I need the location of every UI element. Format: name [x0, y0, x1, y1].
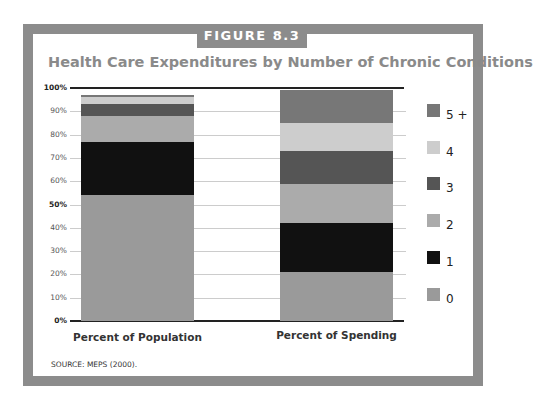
source-note: SOURCE: MEPS (2000). [51, 360, 137, 369]
category-label: Percent of Spending [260, 329, 413, 341]
bar-segment-0 [81, 195, 194, 321]
legend-swatch [427, 104, 440, 117]
bar-percent-of-spending [280, 90, 393, 321]
category-label: Percent of Population [61, 331, 214, 343]
legend-swatch [427, 177, 440, 190]
legend-label: 3 [446, 181, 454, 195]
bar-segment-2 [81, 116, 194, 142]
y-tick-label: 30% [39, 246, 67, 255]
y-tick-label: 100% [39, 83, 67, 92]
legend-item: 5 + [427, 104, 477, 120]
legend-swatch [427, 251, 440, 264]
legend-label: 1 [446, 255, 454, 269]
bar-segment-1 [280, 223, 393, 272]
legend-label: 0 [446, 292, 454, 306]
y-tick-label: 10% [39, 293, 67, 302]
y-tick-label: 50% [39, 200, 67, 209]
legend-swatch [427, 141, 440, 154]
chart-title: Health Care Expenditures by Number of Ch… [48, 54, 533, 70]
legend-label: 5 + [446, 108, 468, 122]
legend-label: 2 [446, 218, 454, 232]
y-tick-label: 20% [39, 269, 67, 278]
legend-item: 2 [427, 214, 477, 230]
bar-segment-2 [280, 184, 393, 224]
bar-segment-3 [81, 104, 194, 116]
bar-segment-5plus [280, 90, 393, 123]
top-axis-line [70, 87, 404, 89]
y-tick-label: 80% [39, 130, 67, 139]
legend-item: 0 [427, 288, 477, 304]
legend-swatch [427, 214, 440, 227]
y-tick-label: 70% [39, 153, 67, 162]
bar-segment-0 [280, 272, 393, 321]
bar-percent-of-population [81, 95, 194, 321]
legend-item: 3 [427, 177, 477, 193]
y-tick-label: 60% [39, 176, 67, 185]
y-tick-label: 0% [39, 316, 67, 325]
figure-label: FIGURE 8.3 [197, 24, 307, 48]
bar-segment-1 [81, 142, 194, 196]
legend-label: 4 [446, 145, 454, 159]
y-tick-label: 40% [39, 223, 67, 232]
y-tick-label: 90% [39, 106, 67, 115]
bar-segment-4 [280, 123, 393, 151]
legend-swatch [427, 288, 440, 301]
legend-item: 4 [427, 141, 477, 157]
bar-segment-3 [280, 151, 393, 184]
legend-item: 1 [427, 251, 477, 267]
bar-segment-4 [81, 97, 194, 104]
